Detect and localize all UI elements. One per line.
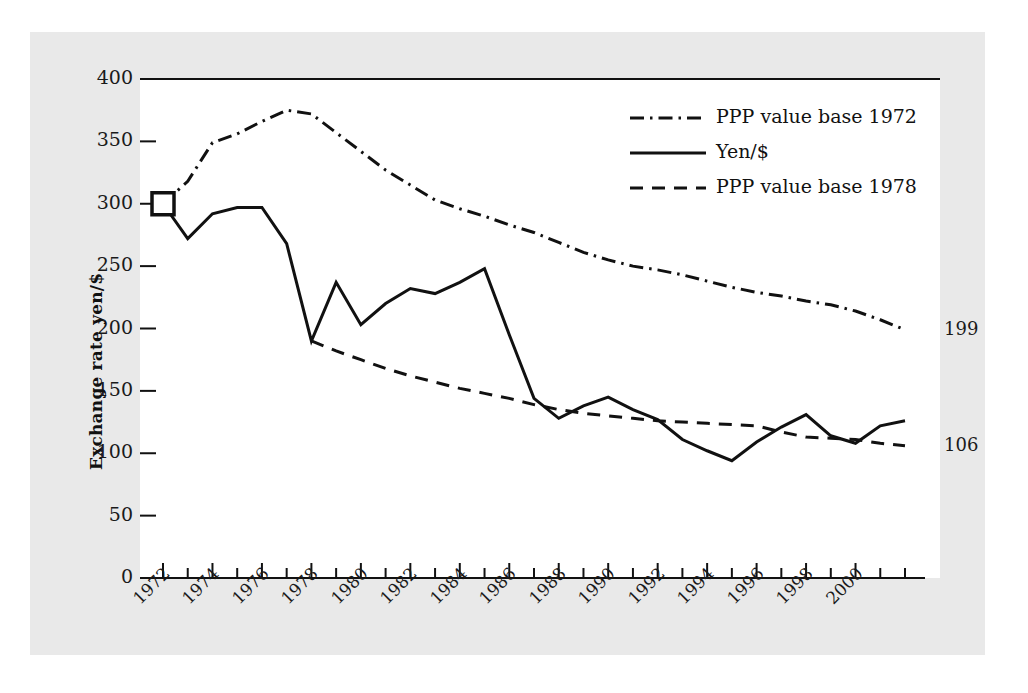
series-end-value-label: 199: [944, 318, 978, 339]
series-layer: [163, 110, 905, 461]
y-tick-label: 300: [71, 191, 133, 213]
start-marker: [152, 193, 174, 215]
y-tick-label: 0: [71, 565, 133, 587]
y-axis-title: Exchange rate yen/$: [86, 273, 106, 470]
axis-lines: [140, 79, 940, 578]
legend-label: Yen/$: [716, 140, 769, 162]
series-line-1: [163, 204, 905, 461]
y-tick-label: 50: [71, 503, 133, 525]
y-tick-label: 350: [71, 128, 133, 150]
legend-label: PPP value base 1978: [716, 175, 917, 197]
legend-label: PPP value base 1972: [716, 105, 917, 127]
series-end-value-label: 106: [944, 434, 978, 455]
series-line-2: [311, 341, 905, 446]
legend-sample-lines: [630, 118, 706, 188]
y-tick-label: 400: [71, 66, 133, 88]
series-line-0: [163, 110, 905, 330]
start-point-marker: [152, 193, 174, 215]
